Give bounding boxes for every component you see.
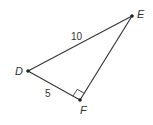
side-df-length-label: 5 [45, 88, 51, 99]
vertex-f-point [78, 98, 82, 102]
vertex-e-point [130, 14, 134, 18]
side-de-length-label: 10 [71, 31, 83, 42]
vertex-e-label: E [137, 8, 145, 20]
side-df [28, 71, 80, 100]
side-fe [80, 16, 132, 100]
vertex-d-label: D [15, 65, 23, 77]
vertex-d-point [26, 69, 30, 73]
side-de [28, 16, 132, 71]
triangle-diagram: D E F 10 5 [0, 0, 153, 125]
triangle-svg: D E F 10 5 [0, 0, 153, 125]
vertex-f-label: F [80, 104, 88, 116]
